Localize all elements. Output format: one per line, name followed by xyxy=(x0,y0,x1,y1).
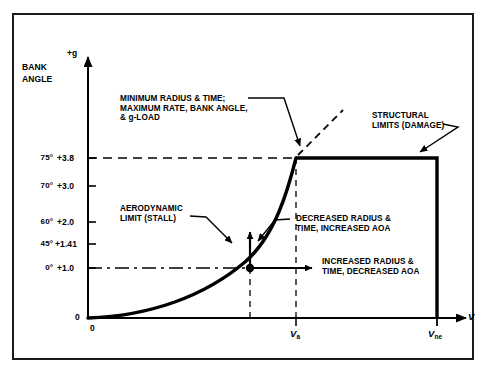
y-axis-ticks xyxy=(88,158,96,318)
stall-curve-extension xyxy=(298,110,343,155)
y-axis-origin-label: 0 xyxy=(75,312,80,322)
x-axis-origin-label: 0 xyxy=(90,323,95,333)
y-tick-g-1p41: +1.41 xyxy=(55,239,85,249)
diagram-page: BANK ANGLE +g 75° 70° 60° 45° 0° +3.8 +3… xyxy=(0,0,488,374)
annotation-decreased-radius: DECREASED RADIUS & TIME, INCREASED AOA xyxy=(296,214,391,233)
y-tick-degrees-45: 45° xyxy=(27,239,53,248)
y-tick-degrees-75: 75° xyxy=(27,153,53,162)
annotation-increased-radius: INCREASED RADIUS & TIME, DECREASED AOA xyxy=(322,257,420,276)
y-tick-g-3p8: +3.8 xyxy=(57,153,87,163)
x-tick-label-va: Va xyxy=(290,328,300,339)
y-tick-degrees-0: 0° xyxy=(27,263,53,272)
annotation-minimum-radius: MINIMUM RADIUS & TIME; MAXIMUM RATE, BAN… xyxy=(120,94,248,123)
x-axis-symbol: V xyxy=(468,311,474,322)
leader-minimum-radius xyxy=(248,98,300,146)
leader-decreased-radius xyxy=(258,219,290,241)
y-tick-degrees-60: 60° xyxy=(27,217,53,226)
structural-limit-boundary xyxy=(296,158,437,318)
x-tick-va-subscript: a xyxy=(296,333,300,340)
y-axis-title-line2: ANGLE xyxy=(22,74,52,84)
leader-aerodynamic-limit xyxy=(190,216,232,243)
annotation-structural-limits: STRUCTURAL LIMITS (DAMAGE) xyxy=(372,111,444,130)
y-tick-g-2p0: +2.0 xyxy=(57,217,87,227)
x-tick-label-vne: Vne xyxy=(428,328,442,339)
aerodynamic-limit-curve xyxy=(88,158,296,318)
x-tick-vne-subscript: ne xyxy=(434,333,442,340)
y-tick-g-3p0: +3.0 xyxy=(57,181,87,191)
y-axis-title-line1: BANK xyxy=(22,62,47,72)
y-axis-unit-label: +g xyxy=(67,48,77,58)
y-tick-g-1p0: +1.0 xyxy=(57,263,87,273)
y-tick-degrees-70: 70° xyxy=(27,181,53,190)
annotation-aerodynamic-limit: AERODYNAMIC LIMIT (STALL) xyxy=(120,204,183,223)
